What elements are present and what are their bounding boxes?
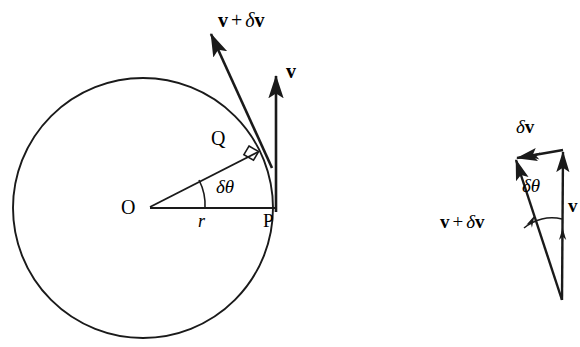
theta-glyph: θ xyxy=(225,176,234,197)
v-glyph: v xyxy=(440,211,450,232)
label-delta-theta-left: δθ xyxy=(216,177,234,196)
delta-glyph: δ xyxy=(245,9,254,31)
label-vector-v-plus-dv-right: v+δv xyxy=(440,212,485,231)
v-glyph-2: v xyxy=(475,211,485,232)
label-vector-v-left: v xyxy=(286,61,296,81)
label-radius-r: r xyxy=(198,212,205,230)
vector-dv-shaft xyxy=(517,150,563,158)
label-point-q: Q xyxy=(211,128,225,148)
label-vector-dv-right: δv xyxy=(516,117,534,136)
label-vector-v-right: v xyxy=(568,196,578,215)
vector-v-right-shaft xyxy=(562,152,563,300)
label-point-o: O xyxy=(121,197,135,217)
label-point-p: P xyxy=(263,211,274,230)
plus-glyph: + xyxy=(228,9,245,31)
figure-vector-graphics xyxy=(0,0,580,347)
delta-glyph: δ xyxy=(466,211,475,232)
left-diagram-group xyxy=(13,34,276,338)
plus-glyph: + xyxy=(450,211,467,232)
theta-glyph: θ xyxy=(531,175,540,196)
label-delta-theta-right: δθ xyxy=(522,176,540,195)
v-glyph-2: v xyxy=(255,9,265,31)
right-diagram-group xyxy=(516,150,566,300)
physics-figure-circular-motion: O P Q r δθ v v+δv δv v v+δv δθ xyxy=(0,0,580,347)
delta-glyph: δ xyxy=(216,176,225,197)
delta-glyph: δ xyxy=(522,175,531,196)
vector-dv-midarrow-icon xyxy=(528,152,541,159)
v-glyph: v xyxy=(525,116,535,137)
delta-glyph: δ xyxy=(516,116,525,137)
label-vector-v-plus-dv-left: v+δv xyxy=(218,10,265,30)
v-glyph: v xyxy=(218,9,228,31)
angle-arc-delta-theta xyxy=(199,180,205,208)
